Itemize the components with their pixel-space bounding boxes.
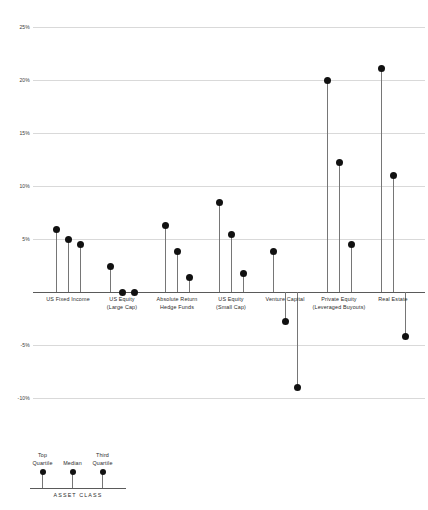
data-stem <box>219 203 220 292</box>
x-axis-baseline <box>33 292 425 293</box>
y-axis-tick-label: 5% <box>4 236 30 242</box>
data-point[interactable] <box>294 384 301 391</box>
x-axis-category-label: US Fixed Income <box>46 295 90 303</box>
y-axis-tick-label: -10% <box>4 395 30 401</box>
legend-label: Median <box>63 452 82 467</box>
data-point[interactable] <box>53 226 60 233</box>
legend-dot <box>100 469 106 475</box>
y-axis-tick-label: 20% <box>4 77 30 83</box>
data-stem <box>273 252 274 292</box>
gridline <box>33 186 425 187</box>
x-axis-category-label: US Equity(Small Cap) <box>216 295 246 311</box>
gridline <box>33 80 425 81</box>
data-point[interactable] <box>107 263 114 270</box>
y-axis-tick-label: -5% <box>4 342 30 348</box>
gridline <box>33 133 425 134</box>
data-point[interactable] <box>324 77 331 84</box>
y-axis-tick-label: 25% <box>4 24 30 30</box>
legend-dot <box>70 469 76 475</box>
data-stem <box>165 225 166 292</box>
legend-dot <box>40 469 46 475</box>
legend-label: ThirdQuartile <box>92 452 112 467</box>
data-point[interactable] <box>402 333 409 340</box>
data-stem <box>327 80 328 292</box>
legend-label: TopQuartile <box>32 452 52 467</box>
data-stem <box>177 252 178 292</box>
data-stem <box>351 244 352 292</box>
data-stem <box>297 292 298 387</box>
x-axis-title: ASSET CLASS <box>30 492 126 498</box>
data-point[interactable] <box>77 241 84 248</box>
gridline <box>33 345 425 346</box>
x-axis-category-label: Real Estate <box>378 295 408 303</box>
legend: TopQuartile MedianThirdQuartile ASSET CL… <box>24 440 132 500</box>
plot-area: 25%20%15%10%5%-5%-10% US Fixed IncomeUS … <box>0 0 428 510</box>
gridline <box>33 27 425 28</box>
data-stem <box>339 163 340 292</box>
data-stem <box>231 235 232 292</box>
data-stem <box>381 68 382 292</box>
y-axis-tick-label: 15% <box>4 130 30 136</box>
data-point[interactable] <box>216 199 223 206</box>
gridline <box>33 239 425 240</box>
data-stem <box>68 239 69 292</box>
data-point[interactable] <box>348 241 355 248</box>
data-point[interactable] <box>282 318 289 325</box>
data-stem <box>393 175 394 292</box>
data-point[interactable] <box>270 248 277 255</box>
y-axis-tick-label: 10% <box>4 183 30 189</box>
quartile-dispersion-chart: 25%20%15%10%5%-5%-10% US Fixed IncomeUS … <box>0 0 428 510</box>
data-point[interactable] <box>378 65 385 72</box>
data-point[interactable] <box>65 236 72 243</box>
data-point[interactable] <box>186 274 193 281</box>
data-point[interactable] <box>390 172 397 179</box>
data-point[interactable] <box>174 248 181 255</box>
data-point[interactable] <box>336 159 343 166</box>
data-point[interactable] <box>240 270 247 277</box>
x-axis-category-label: Venture Capital <box>265 295 304 303</box>
data-stem <box>56 229 57 292</box>
legend-baseline <box>30 488 126 489</box>
gridline <box>33 398 425 399</box>
data-point[interactable] <box>162 222 169 229</box>
x-axis-category-label: Absolute ReturnHedge Funds <box>157 295 198 311</box>
x-axis-category-label: US Equity(Large Cap) <box>107 295 137 311</box>
data-point[interactable] <box>228 231 235 238</box>
data-stem <box>110 267 111 292</box>
x-axis-category-label: Private Equity(Leveraged Buyouts) <box>313 295 366 311</box>
data-stem <box>80 244 81 292</box>
